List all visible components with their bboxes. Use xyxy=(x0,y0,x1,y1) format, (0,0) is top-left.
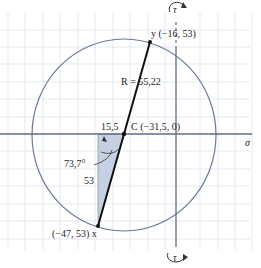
vertical-leg-label: 53 xyxy=(84,175,94,186)
horizontal-leg-label: 15,5 xyxy=(101,121,119,132)
point-x-label: (−47, 53) x xyxy=(52,228,97,240)
point-y-label: y (−16, 53) xyxy=(151,28,196,40)
tau-label-top: τ xyxy=(173,4,177,15)
clockwise-arrowhead-icon xyxy=(181,2,187,8)
point-y-dot xyxy=(148,40,152,44)
mohr-circle-diagram: τ τ σ y (−16, 53) R = 55,22 C (−31,5, 0)… xyxy=(0,0,261,268)
angle-label: 73,7° xyxy=(64,158,86,169)
tau-label-bottom: τ xyxy=(173,252,177,263)
center-label: C (−31,5, 0) xyxy=(131,121,180,133)
sigma-label: σ xyxy=(245,137,251,148)
center-dot xyxy=(122,132,126,136)
radius-label: R = 55,22 xyxy=(121,76,161,87)
counterclockwise-arrowhead-icon xyxy=(183,254,188,261)
grid xyxy=(0,12,252,250)
